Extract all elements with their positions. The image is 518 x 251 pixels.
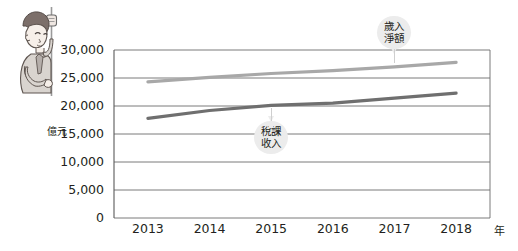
- x-axis-tick-label: 2015: [247, 221, 295, 236]
- y-axis-tick-label: 20,000: [60, 98, 104, 113]
- callout-leader-line: [271, 108, 272, 121]
- x-axis-unit-label: 年: [494, 222, 505, 238]
- x-axis-tick-label: 2014: [186, 221, 234, 236]
- callout-leader-line: [394, 49, 395, 63]
- y-axis-tick-label: 10,000: [60, 154, 104, 169]
- x-axis-tick-label: 2013: [124, 221, 172, 236]
- y-axis-tick-label: 25,000: [60, 70, 104, 85]
- chart-figure: 30,00025,00020,00015,00010,0005,0000 201…: [0, 0, 518, 251]
- y-axis-tick-label: 5,000: [68, 182, 104, 197]
- x-axis-tick-label: 2016: [309, 221, 357, 236]
- x-axis-tick-label: 2018: [432, 221, 480, 236]
- callout-revenue-net: 歲入 淨額: [377, 16, 411, 49]
- y-axis-unit-label: 億元: [46, 126, 68, 137]
- y-axis-tick-label: 0: [96, 210, 104, 225]
- y-axis-tick-label: 30,000: [60, 42, 104, 57]
- x-axis-tick-label: 2017: [370, 221, 418, 236]
- series-line-revenue-net: [148, 62, 456, 82]
